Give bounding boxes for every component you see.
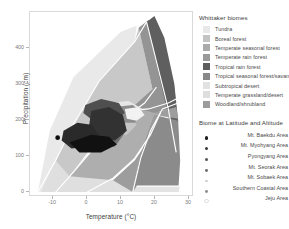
legend-item-tropical-rain-forest[interactable]: Tropical rain forest xyxy=(199,62,289,71)
legend-point-mt-seorak-area[interactable]: Mt. Seorak Area xyxy=(199,161,289,172)
x-tick-label: 0 xyxy=(75,199,97,205)
legend-swatch-icon xyxy=(203,101,210,108)
legend-item-label: Boreal forest xyxy=(215,36,246,42)
legend-point-mt-baekdu-area[interactable]: Mt. Baekdu Area xyxy=(199,130,289,141)
legend-point-label: Southern Coastal Area xyxy=(211,185,289,191)
plot-panel xyxy=(29,11,193,196)
y-tick-label: 200 xyxy=(4,116,24,122)
legend-item-woodland-shrubland[interactable]: Woodland/shrubland xyxy=(199,100,289,109)
legend-swatch-icon xyxy=(203,82,210,89)
legend-swatch-icon xyxy=(203,91,210,98)
x-axis-title: Temperature (°C) xyxy=(29,213,193,220)
y-tick-label: 100 xyxy=(4,152,24,158)
legend-item-temperate-seasonal-forest[interactable]: Temperate seasonal forest xyxy=(199,43,289,52)
plot-canvas xyxy=(30,12,192,195)
y-tickmark xyxy=(26,47,29,48)
legend-swatch-icon xyxy=(203,35,210,42)
legend-whittaker-biomes: Whittaker biomes Tundra Boreal forest Te… xyxy=(199,14,289,109)
legend-swatch-icon xyxy=(203,26,210,33)
x-tick-label: 30 xyxy=(177,199,199,205)
legend-item-tundra[interactable]: Tundra xyxy=(199,25,289,34)
legend-point-label: Jeju Area xyxy=(211,195,289,201)
legend-item-label: Tropical seasonal forest/savanna xyxy=(215,73,289,79)
legend-item-label: Tundra xyxy=(215,26,232,32)
legend-item-label: Subtropical desert xyxy=(215,83,259,89)
x-tick-label: 10 xyxy=(109,199,131,205)
legend-point-mt-sobaek-area[interactable]: Mt. Sobaek Area xyxy=(199,172,289,183)
legend-swatch-icon xyxy=(203,54,210,61)
legend-item-subtropical-desert[interactable]: Subtropical desert xyxy=(199,81,289,90)
biome-area-subtropical-desert xyxy=(133,186,180,192)
x-tick-label: -10 xyxy=(41,199,63,205)
legend-item-label: Temperate rain forest xyxy=(215,54,267,60)
legend-points-title: Biome at Latitude and Altitude xyxy=(199,119,289,126)
whittaker-biome-chart: Temperature (°C) Precipitation (cm) -10 … xyxy=(0,0,289,229)
point-marker-icon xyxy=(202,189,211,207)
legend-item-temperate-grassland-desert[interactable]: Temperate grassland/desert xyxy=(199,90,289,99)
y-tickmark xyxy=(26,191,29,192)
y-tick-label: 300 xyxy=(4,80,24,86)
legend-point-southern-coastal-area[interactable]: Southern Coastal Area xyxy=(199,182,289,193)
x-tick-label: 20 xyxy=(143,199,165,205)
legend-biomes-title: Whittaker biomes xyxy=(199,14,289,21)
legend-point-pyongyang-area[interactable]: Pyongyang Area xyxy=(199,151,289,162)
legend-point-label: Mt. Myohyang Area xyxy=(211,142,289,148)
legend-item-boreal-forest[interactable]: Boreal forest xyxy=(199,34,289,43)
legend-point-label: Pyongyang Area xyxy=(211,153,289,159)
legend-point-jeju-area[interactable]: Jeju Area xyxy=(199,193,289,204)
legend-point-label: Mt. Seorak Area xyxy=(211,164,289,170)
legend-item-temperate-rain-forest[interactable]: Temperate rain forest xyxy=(199,53,289,62)
legend-item-label: Woodland/shrubland xyxy=(215,101,265,107)
legend-point-label: Mt. Baekdu Area xyxy=(211,132,289,138)
y-tick-label: 400 xyxy=(4,44,24,50)
legend-item-label: Temperate seasonal forest xyxy=(215,45,280,51)
legend-swatch-icon xyxy=(203,73,210,80)
legend-point-label: Mt. Sobaek Area xyxy=(211,174,289,180)
legend-item-label: Temperate grassland/desert xyxy=(215,92,283,98)
legend-swatch-icon xyxy=(203,44,210,51)
y-tickmark xyxy=(26,83,29,84)
legend-swatch-icon xyxy=(203,63,210,70)
legend-item-tropical-seasonal-forest-savanna[interactable]: Tropical seasonal forest/savanna xyxy=(199,71,289,80)
outlier-point xyxy=(55,135,60,140)
legend-item-label: Tropical rain forest xyxy=(215,64,260,70)
y-tick-label: 0 xyxy=(4,188,24,194)
y-tickmark xyxy=(26,119,29,120)
legend-biome-at-latitude-and-altitude: Biome at Latitude and Altitude Mt. Baekd… xyxy=(199,119,289,204)
legend-point-mt-myohyang-area[interactable]: Mt. Myohyang Area xyxy=(199,140,289,151)
y-tickmark xyxy=(26,155,29,156)
